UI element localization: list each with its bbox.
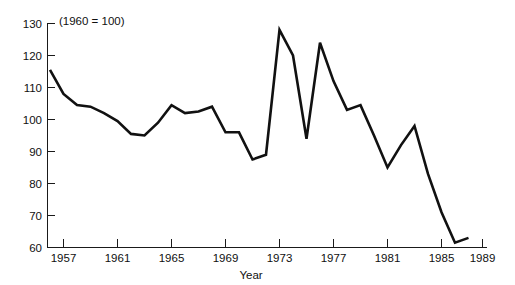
line-chart: 130 120 110 100 90 80 70 60 1957 1961 19… (0, 0, 515, 285)
y-tick-label-70: 70 (29, 210, 42, 222)
x-tick-label-1973: 1973 (267, 252, 293, 264)
x-tick-label-1957: 1957 (51, 252, 77, 264)
chart-container: 130 120 110 100 90 80 70 60 1957 1961 19… (0, 0, 515, 285)
y-tick-label-80: 80 (29, 178, 42, 190)
x-tick-label-1981: 1981 (375, 252, 401, 264)
x-axis-title: Year (239, 269, 262, 281)
base-year-annotation: (1960 = 100) (59, 15, 125, 27)
x-tick-label-1985: 1985 (429, 252, 455, 264)
y-tick-label-110: 110 (24, 82, 42, 94)
x-tick-label-1989: 1989 (470, 252, 496, 264)
x-tick-label-1969: 1969 (213, 252, 239, 264)
x-tick-label-1977: 1977 (321, 252, 347, 264)
y-tick-label-60: 60 (29, 242, 42, 254)
y-tick-label-90: 90 (29, 146, 42, 158)
x-tick-label-1961: 1961 (105, 252, 131, 264)
y-tick-label-100: 100 (23, 114, 42, 126)
x-tick-label-1965: 1965 (159, 252, 185, 264)
y-tick-label-120: 120 (23, 50, 42, 62)
y-tick-label-130: 130 (23, 18, 42, 30)
data-series-line (50, 30, 469, 243)
x-tick-group (64, 239, 483, 247)
